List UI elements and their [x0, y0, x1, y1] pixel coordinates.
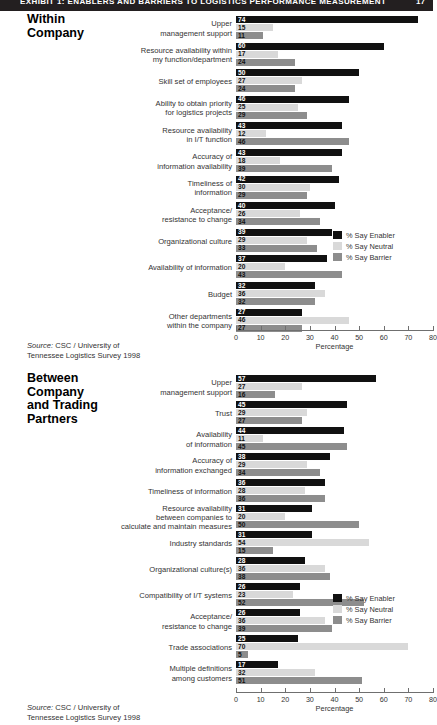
bar-value: 45 [238, 401, 245, 409]
bar-neutral: 17 [236, 51, 433, 58]
category-label: Resource availabilityin I/T function [42, 126, 232, 144]
bar-value: 17 [238, 661, 245, 669]
bar-value: 29 [238, 461, 245, 469]
bar-neutral: 54 [236, 539, 433, 546]
bar-enabler: 28 [236, 557, 433, 564]
bar-value: 27 [238, 383, 245, 391]
category-label: Availabilityof information [42, 430, 232, 448]
legend-label: % Say Neutral [346, 242, 393, 251]
bar-group: 312050 [236, 505, 433, 529]
bar-value: 43 [238, 149, 245, 157]
bar-group: 741511 [236, 16, 433, 40]
bar-value: 34 [238, 469, 245, 477]
axis-tick-label: 40 [331, 695, 339, 704]
bar-enabler: 31 [236, 531, 433, 538]
bar-enabler: 74 [236, 16, 433, 23]
bar-neutral: 27 [236, 383, 433, 390]
bar-value: 11 [238, 32, 245, 40]
bar-value: 34 [238, 218, 245, 226]
axis-x-label: Percentage [236, 704, 433, 713]
axis-tick-label: 30 [306, 333, 314, 342]
category-label: Trust [42, 409, 232, 418]
bar-barrier: 32 [236, 298, 433, 305]
bar-value: 36 [238, 290, 245, 298]
axis-tick [236, 326, 237, 331]
chart-2-axis: 01020304050607080Percentage [236, 692, 433, 714]
bar-value: 36 [238, 617, 245, 625]
axis-tick [359, 688, 360, 693]
bar-neutral: 28 [236, 487, 433, 494]
legend-label: % Say Enabler [346, 594, 395, 603]
legend-swatch-icon [333, 253, 342, 261]
axis-tick-label: 50 [355, 333, 363, 342]
bar-value: 39 [238, 165, 245, 173]
category-label: Organizational culture [42, 237, 232, 246]
bar-enabler: 32 [236, 282, 433, 289]
bar-barrier: 46 [236, 138, 433, 145]
bar-value: 29 [238, 111, 245, 119]
category-label: Timeliness ofinformation [42, 179, 232, 197]
bar-barrier: 11 [236, 32, 433, 39]
category-label: Availability of information [42, 263, 232, 272]
bar-barrier: 24 [236, 85, 433, 92]
legend-swatch-icon [333, 605, 342, 613]
category-label: Acceptance/resistance to change [42, 612, 232, 630]
category-label: Compatibility of I/T systems [42, 591, 232, 600]
bar-value: 54 [238, 539, 245, 547]
bar-barrier: 34 [236, 469, 433, 476]
bar-value: 46 [238, 138, 245, 146]
bar-enabler: 27 [236, 309, 433, 316]
bar-value: 29 [238, 236, 245, 244]
legend-item: % Say Neutral [333, 242, 395, 253]
bar-barrier: 24 [236, 59, 433, 66]
bar-enabler: 46 [236, 96, 433, 103]
bar-group: 572716 [236, 375, 433, 399]
bar-barrier: 50 [236, 521, 433, 528]
bar-enabler: 38 [236, 453, 433, 460]
bar-barrier: 51 [236, 677, 433, 684]
bar-neutral: 30 [236, 184, 433, 191]
axis-tick [433, 688, 434, 693]
bar-value: 43 [238, 271, 245, 279]
category-label: Trade associations [42, 643, 232, 652]
source-text-line2: Tennessee Logistics Survey 1998 [27, 713, 140, 722]
axis-tick-label: 20 [281, 333, 289, 342]
bar-group: 423029 [236, 176, 433, 200]
legend-label: % Say Barrier [346, 616, 392, 625]
bar-value: 30 [238, 183, 245, 191]
axis-tick-label: 0 [234, 333, 238, 342]
axis-tick-label: 30 [306, 695, 314, 704]
bar-group: 441145 [236, 427, 433, 451]
category-label: Budget [42, 290, 232, 299]
bar-neutral: 25 [236, 104, 433, 111]
bar-value: 50 [238, 521, 245, 529]
bar-neutral: 26 [236, 210, 433, 217]
bar-barrier: 29 [236, 112, 433, 119]
bar-value: 57 [238, 375, 245, 383]
legend-label: % Say Barrier [346, 253, 392, 262]
bar-value: 15 [238, 24, 245, 32]
bar-value: 28 [238, 487, 245, 495]
bar-enabler: 43 [236, 122, 433, 129]
axis-tick [285, 688, 286, 693]
bar-group: 315415 [236, 531, 433, 555]
bar-value: 20 [238, 263, 245, 271]
bar-barrier: 5 [236, 651, 433, 658]
bar-value: 18 [238, 157, 245, 165]
bar-group: 402634 [236, 202, 433, 226]
exhibit-title: EXHIBIT 1: ENABLERS AND BARRIERS TO LOGI… [20, 0, 386, 6]
bar-value: 40 [238, 202, 245, 210]
bar-group: 25705 [236, 635, 433, 659]
bar-value: 25 [238, 635, 245, 643]
category-label: Accuracy ofinformation exchanged [42, 456, 232, 474]
axis-tick [433, 326, 434, 331]
axis-tick [236, 688, 237, 693]
bar-value: 29 [238, 409, 245, 417]
bar-value: 43 [238, 122, 245, 130]
category-label: Industry standards [42, 539, 232, 548]
bar-value: 36 [238, 565, 245, 573]
category-label: Uppermanagement support [42, 378, 232, 396]
bar-value: 17 [238, 50, 245, 58]
bar-value: 24 [238, 85, 245, 93]
bar-value: 32 [238, 669, 245, 677]
